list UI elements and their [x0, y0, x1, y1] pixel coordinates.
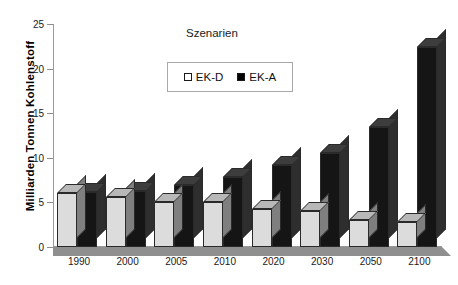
y-tick-label: 25: [33, 19, 44, 30]
bar-group: [203, 24, 252, 247]
bar-face: [57, 193, 77, 247]
bar-group: [154, 24, 203, 247]
y-tick-label: 5: [38, 197, 44, 208]
y-tick-label: 0: [38, 242, 44, 253]
x-tick-label: 2100: [408, 256, 430, 267]
bar-side: [389, 109, 398, 238]
bar-ek-d-2000: [106, 197, 126, 247]
y-tick-label: 10: [33, 152, 44, 163]
bar-face: [106, 197, 126, 247]
chart-floor-edge: [442, 247, 451, 256]
legend-item-ek-a: EK-A: [237, 71, 276, 83]
legend-label-ek-d: EK-D: [196, 71, 223, 83]
bar-group: [397, 24, 446, 247]
bar-face: [300, 211, 320, 247]
y-tick-label: 20: [33, 63, 44, 74]
bar-side: [437, 29, 446, 238]
bar-group: [300, 24, 349, 247]
bar-face: [154, 202, 174, 247]
y-axis-title: Milliarden Tonnen Kohlenstoff: [24, 1, 36, 251]
bar-face: [397, 222, 417, 247]
bar-ek-d-1990: [57, 193, 77, 247]
bar-face: [349, 220, 369, 247]
bar-groups: [53, 24, 442, 247]
bar-group: [57, 24, 106, 247]
y-tick: [47, 247, 53, 248]
x-tick-label: 1990: [68, 256, 90, 267]
bar-group: [106, 24, 155, 247]
x-axis-labels: 19902000200520102020203020502100: [53, 256, 442, 274]
x-tick-label: 2010: [214, 256, 236, 267]
chart-floor: [53, 247, 442, 256]
legend-item-ek-d: EK-D: [184, 71, 223, 83]
x-tick-label: 2050: [360, 256, 382, 267]
bar-ek-d-2050: [349, 220, 369, 247]
bar-chart: Milliarden Tonnen Kohlenstoff 0510152025…: [0, 0, 458, 285]
bar-group: [349, 24, 398, 247]
bar-ek-d-2100: [397, 222, 417, 247]
legend-label-ek-a: EK-A: [249, 71, 276, 83]
y-tick-label: 15: [33, 108, 44, 119]
bar-group: [252, 24, 301, 247]
bar-ek-d-2030: [300, 211, 320, 247]
legend-title: Szenarien: [186, 27, 238, 39]
bar-ek-d-2010: [203, 202, 223, 247]
x-tick-label: 2005: [165, 256, 187, 267]
x-tick-label: 2020: [262, 256, 284, 267]
x-tick-label: 2000: [117, 256, 139, 267]
legend: EK-D EK-A: [167, 62, 293, 92]
x-tick-label: 2030: [311, 256, 333, 267]
dark-square-icon: [237, 73, 245, 81]
bar-face: [203, 202, 223, 247]
bar-face: [252, 209, 272, 247]
light-square-icon: [184, 73, 192, 81]
bar-side: [272, 191, 281, 238]
bar-ek-d-2005: [154, 202, 174, 247]
bar-ek-d-2020: [252, 209, 272, 247]
plot-area: 0510152025: [53, 24, 442, 247]
